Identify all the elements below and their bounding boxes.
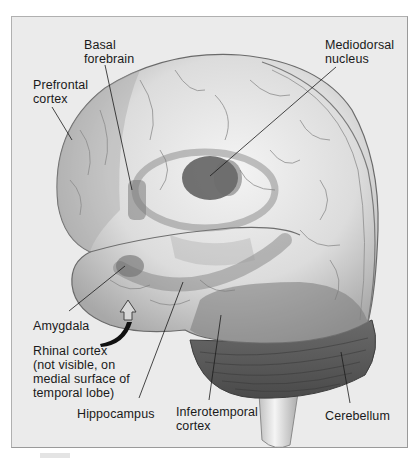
label-amygdala: Amygdala: [33, 319, 89, 333]
label-rhinal-cortex: Rhinal cortex (not visible, on medial su…: [33, 344, 130, 400]
label-inferotemporal-cortex: Inferotemporal cortex: [176, 405, 258, 433]
label-hippocampus: Hippocampus: [77, 407, 155, 421]
label-prefrontal-cortex: Prefrontal cortex: [33, 78, 88, 106]
figure-credit-mark: [40, 453, 70, 458]
label-basal-forebrain: Basal forebrain: [84, 38, 134, 66]
label-mediodorsal-nucleus: Mediodorsal nucleus: [325, 38, 394, 66]
label-cerebellum: Cerebellum: [325, 409, 390, 423]
